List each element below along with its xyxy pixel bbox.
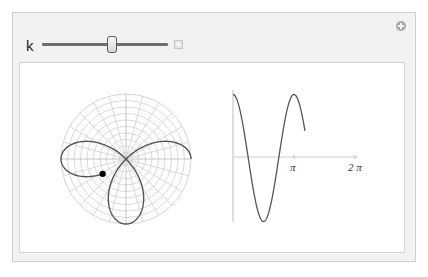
plots: π 2 π: [0, 0, 428, 277]
two-pi-tick-label: 2 π: [348, 161, 362, 173]
current-point-dot: [99, 171, 105, 177]
pi-tick-label: π: [290, 161, 296, 173]
